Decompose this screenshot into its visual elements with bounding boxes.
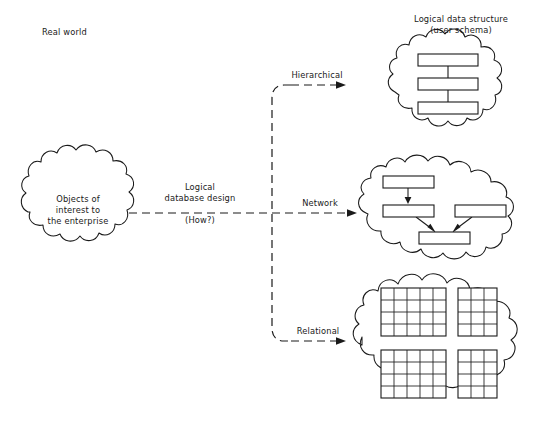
network-cloud: [359, 155, 514, 259]
diagram-canvas: Real world Logical data structure (user …: [0, 0, 560, 444]
branch-arrow-hierarchical: [291, 81, 346, 89]
relational-table-3: [381, 350, 446, 398]
relational-table-4: [458, 350, 497, 398]
process-label-line1: Logical: [140, 182, 260, 193]
logical-data-structure-title-line1: Logical data structure: [396, 14, 526, 25]
hierarchical-box-1: [418, 54, 478, 66]
network-box-4: [419, 232, 470, 244]
relational-table-1: [381, 288, 446, 336]
branch-label-network: Network: [290, 198, 350, 209]
process-label-line3: (How?): [140, 215, 260, 226]
relational-cloud: [353, 274, 517, 398]
branch-label-relational: Relational: [286, 326, 350, 337]
relational-table-2: [458, 288, 497, 336]
logical-data-structure-title-line2: (user schema): [396, 25, 526, 36]
branch-label-hierarchical: Hierarchical: [281, 70, 353, 81]
hierarchical-box-3: [418, 102, 478, 114]
real-world-label: Real world: [42, 27, 142, 38]
branch-arrow-network: [272, 209, 357, 217]
relational-arrowhead: [336, 337, 346, 345]
source-cloud-text-line3: the enterprise: [28, 216, 128, 227]
hierarchical-arrowhead: [336, 81, 346, 89]
hierarchical-box-2: [418, 78, 478, 90]
source-cloud-text-line2: interest to: [28, 205, 128, 216]
hierarchical-cloud: [388, 29, 501, 126]
network-box-2: [383, 205, 434, 217]
network-arrowhead: [347, 209, 357, 217]
source-cloud-text-line1: Objects of: [28, 194, 128, 205]
network-box-3: [455, 205, 506, 217]
branch-arrow-relational: [291, 337, 346, 345]
process-label-line2: database design: [140, 193, 260, 204]
network-box-1: [383, 176, 434, 188]
